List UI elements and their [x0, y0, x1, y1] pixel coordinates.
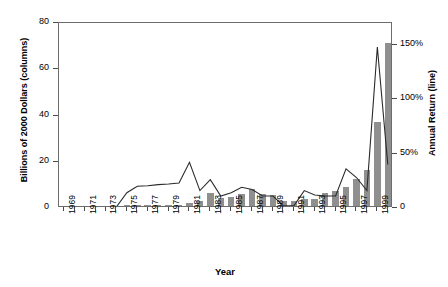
- x-axis-tick-label: 1975: [129, 174, 139, 214]
- y-axis-left-tick-label: 20: [39, 155, 49, 165]
- y-axis-left-tick: [53, 22, 58, 23]
- x-axis-tick: [335, 207, 336, 211]
- x-axis-tick-label: 1977: [150, 174, 160, 214]
- x-axis-tick-label: 1979: [171, 174, 181, 214]
- x-axis-tick: [209, 207, 210, 211]
- x-axis-tick: [355, 207, 356, 211]
- y-axis-left-tick-label: 0: [44, 201, 49, 211]
- x-axis-tick: [324, 207, 325, 211]
- x-axis-tick: [157, 207, 158, 211]
- chart-container: Billions of 2000 Dollars (columns) Annua…: [0, 0, 448, 287]
- y-axis-left-tick: [53, 161, 58, 162]
- x-axis-tick: [303, 207, 304, 211]
- x-axis-tick: [178, 207, 179, 211]
- y-axis-right-title: Annual Return (line): [427, 38, 437, 188]
- x-axis-tick-label: 1999: [380, 174, 390, 214]
- x-axis-tick-label: 1983: [213, 174, 223, 214]
- x-axis-tick-label: 1981: [192, 174, 202, 214]
- x-axis-tick: [272, 207, 273, 211]
- x-axis-tick: [168, 207, 169, 211]
- x-axis-tick-label: 1985: [234, 174, 244, 214]
- y-axis-right-tick: [392, 44, 397, 45]
- y-axis-left-tick-label: 80: [39, 16, 49, 26]
- x-axis-title: Year: [58, 266, 392, 277]
- x-axis-tick: [366, 207, 367, 211]
- y-axis-right-tick-label: 100%: [400, 92, 423, 102]
- x-axis-tick-label: 1971: [88, 174, 98, 214]
- x-axis-tick: [136, 207, 137, 211]
- x-axis-tick: [188, 207, 189, 211]
- y-axis-right-tick-label: 0: [400, 201, 405, 211]
- x-axis-tick: [115, 207, 116, 211]
- y-axis-left-tick-label: 40: [39, 109, 49, 119]
- x-axis-tick: [241, 207, 242, 211]
- y-axis-left-tick: [53, 115, 58, 116]
- y-axis-right-tick: [392, 98, 397, 99]
- x-axis-tick: [282, 207, 283, 211]
- x-axis-tick: [199, 207, 200, 211]
- x-axis-tick: [387, 207, 388, 211]
- y-axis-right-tick-label: 50%: [400, 147, 418, 157]
- x-axis-tick-label: 1993: [317, 174, 327, 214]
- x-axis-tick: [262, 207, 263, 211]
- x-axis-tick-label: 1973: [108, 174, 118, 214]
- x-axis-tick: [126, 207, 127, 211]
- y-axis-left-title: Billions of 2000 Dollars (columns): [19, 25, 29, 195]
- x-axis-tick-label: 1987: [255, 174, 265, 214]
- x-axis-tick-label: 1997: [359, 174, 369, 214]
- y-axis-left-tick-label: 60: [39, 62, 49, 72]
- x-axis-tick: [314, 207, 315, 211]
- x-axis-tick: [95, 207, 96, 211]
- x-axis-tick: [63, 207, 64, 211]
- x-axis-tick-label: 1995: [338, 174, 348, 214]
- x-axis-tick-label: 1969: [67, 174, 77, 214]
- y-axis-right-tick: [392, 207, 397, 208]
- x-axis-tick: [105, 207, 106, 211]
- y-axis-left-tick: [53, 68, 58, 69]
- x-axis-tick-label: 1989: [275, 174, 285, 214]
- y-axis-right-tick: [392, 153, 397, 154]
- y-axis-right-tick-label: 150%: [400, 38, 423, 48]
- x-axis-tick: [147, 207, 148, 211]
- x-axis-tick: [220, 207, 221, 211]
- x-axis-tick: [376, 207, 377, 211]
- x-axis-tick: [230, 207, 231, 211]
- x-axis-tick: [345, 207, 346, 211]
- x-axis-tick: [293, 207, 294, 211]
- x-axis-tick: [84, 207, 85, 211]
- x-axis-tick: [251, 207, 252, 211]
- x-axis-tick-label: 1991: [296, 174, 306, 214]
- x-axis-tick: [74, 207, 75, 211]
